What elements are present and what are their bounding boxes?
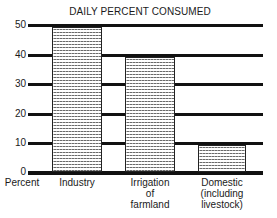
xlabel-irrigation-line1: Irrigation (122, 177, 178, 188)
xlabel-irrigation-line2: of (122, 188, 178, 199)
xlabel-domestic-line3: livestock) (192, 199, 252, 210)
ytick-10: 10 (4, 138, 26, 148)
xlabel-domestic-line1: Domestic (192, 177, 252, 188)
xlabel-domestic-line2: (including (192, 188, 252, 199)
ytick-20: 20 (4, 109, 26, 119)
ytick-50: 50 (4, 20, 26, 30)
ytick-30: 30 (4, 79, 26, 89)
xlabel-industry: Industry (52, 177, 102, 188)
xlabel-irrigation-line3: farmland (122, 199, 178, 210)
ytick-40: 40 (4, 50, 26, 60)
chart-title: DAILY PERCENT CONSUMED (30, 6, 250, 17)
bar-domestic (198, 145, 246, 172)
bar-industry (52, 27, 102, 172)
xlabel-irrigation: Irrigation of farmland (122, 177, 178, 210)
ytick-0: 0 (4, 167, 26, 177)
xlabel-domestic: Domestic (including livestock) (192, 177, 252, 210)
y-unit-label: Percent (2, 177, 42, 188)
bar-irrigation (125, 57, 175, 172)
